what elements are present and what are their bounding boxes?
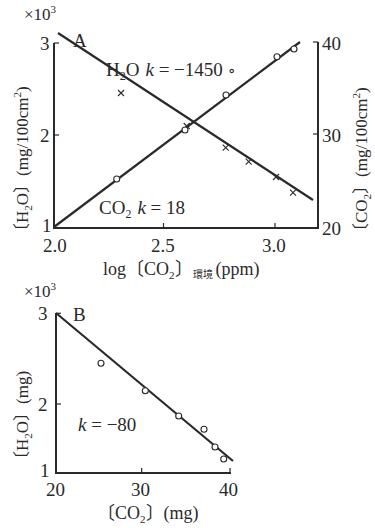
panel-a: ×103 3 2 1 40 30 20 2.0 2.5 3.0 log〔CO2〕… bbox=[11, 3, 373, 281]
panel-a-right-label-40: 40 bbox=[322, 33, 341, 54]
panel-a-x-title: log〔CO2〕環境(ppm) bbox=[103, 259, 260, 281]
co2-point bbox=[223, 92, 229, 98]
panel-a-right-label-20: 20 bbox=[322, 218, 341, 239]
data-point bbox=[98, 360, 104, 366]
data-point bbox=[142, 388, 148, 394]
data-point bbox=[221, 456, 227, 462]
panel-a-left-label-1: 1 bbox=[42, 215, 52, 236]
panel-b-points bbox=[98, 360, 227, 462]
panel-b-y-multiplier: ×103 bbox=[24, 280, 57, 301]
panel-b-letter: B bbox=[73, 304, 86, 325]
panel-b-y-label-1: 1 bbox=[40, 460, 50, 481]
panel-b: ×103 3 2 1 20 30 40 〔CO2〕(mg) 〔H2O〕(mg) … bbox=[13, 280, 238, 525]
figure: ×103 3 2 1 40 30 20 2.0 2.5 3.0 log〔CO2〕… bbox=[0, 0, 375, 528]
panel-a-co2-annotation: CO2k = 18 bbox=[99, 197, 185, 221]
panel-a-x-label-2.5: 2.5 bbox=[151, 235, 175, 256]
data-point bbox=[201, 426, 207, 432]
panel-a-x-label-2.0: 2.0 bbox=[43, 235, 67, 256]
h2o-point bbox=[118, 90, 124, 96]
panel-a-left-label-2: 2 bbox=[40, 125, 50, 146]
panel-a-h2o-points bbox=[118, 90, 296, 196]
co2-point bbox=[274, 54, 280, 60]
panel-b-x-title: 〔CO2〕(mg) bbox=[97, 503, 199, 525]
panel-a-left-y-title: 〔H2O〕(mg/100cm2) bbox=[11, 86, 34, 240]
panel-b-y-title: 〔H2O〕(mg) bbox=[13, 371, 34, 468]
panel-a-right-y-title: 〔CO2〕(mg/100cm2) bbox=[350, 87, 373, 240]
co2-point bbox=[182, 127, 188, 133]
panel-b-k-annotation: k = −80 bbox=[78, 414, 136, 435]
panel-a-x-label-3.0: 3.0 bbox=[262, 235, 286, 256]
panel-b-y-label-2: 2 bbox=[38, 394, 48, 415]
panel-b-x-label-40: 40 bbox=[219, 479, 238, 500]
co2-point bbox=[114, 176, 120, 182]
panel-b-y-label-3: 3 bbox=[38, 303, 48, 324]
panel-a-right-label-30: 30 bbox=[322, 125, 341, 146]
co2-point bbox=[291, 46, 297, 52]
panel-a-y-multiplier: ×103 bbox=[24, 3, 57, 24]
data-point bbox=[176, 413, 182, 419]
h2o-point bbox=[290, 190, 296, 196]
panel-a-h2o-annotation: H2Ok = −1450∘ bbox=[106, 59, 236, 83]
h2o-point bbox=[223, 145, 229, 151]
panel-b-x-label-20: 20 bbox=[46, 479, 65, 500]
panel-b-fit-line bbox=[56, 313, 233, 461]
panel-a-left-label-3: 3 bbox=[40, 33, 50, 54]
panel-b-x-label-30: 30 bbox=[131, 479, 150, 500]
data-point bbox=[212, 444, 218, 450]
h2o-point bbox=[246, 159, 252, 165]
